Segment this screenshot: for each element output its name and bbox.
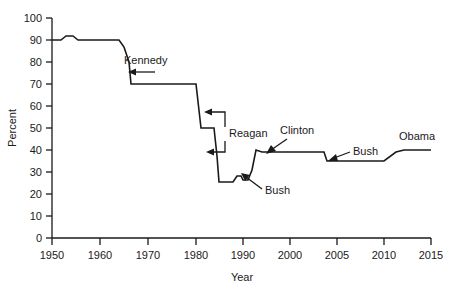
x-axis-tick-labels: 1950 1960 1970 1980 1990 2000 2005 2010 … (40, 249, 443, 261)
x-tick-label: 2005 (325, 249, 349, 261)
x-tick-label: 2000 (278, 249, 302, 261)
chart-background (0, 0, 456, 288)
y-tick-label: 10 (30, 210, 42, 222)
x-tick-label: 2010 (372, 249, 396, 261)
x-tick-label: 1970 (136, 249, 160, 261)
y-tick-label: 70 (30, 78, 42, 90)
annotation-obama: Obama (399, 130, 436, 142)
chart-container: 100 90 80 70 60 50 40 30 20 10 0 1950 (0, 0, 456, 288)
y-tick-label: 100 (24, 12, 42, 24)
y-tick-label: 60 (30, 100, 42, 112)
x-tick-label: 1960 (88, 249, 112, 261)
y-tick-label: 90 (30, 34, 42, 46)
y-axis-title: Percent (6, 109, 18, 147)
x-tick-label: 2015 (419, 249, 443, 261)
annotation-label-bush-1991: Bush (265, 184, 290, 196)
annotation-label-reagan: Reagan (229, 127, 268, 139)
y-tick-label: 80 (30, 56, 42, 68)
y-tick-label: 30 (30, 166, 42, 178)
y-tick-label: 40 (30, 144, 42, 156)
y-tick-label: 0 (36, 232, 42, 244)
tax-rate-line-chart: 100 90 80 70 60 50 40 30 20 10 0 1950 (0, 0, 456, 288)
annotation-label-bush-2003: Bush (353, 145, 378, 157)
x-tick-label: 1980 (184, 249, 208, 261)
annotation-label-kennedy: Kennedy (124, 54, 168, 66)
y-tick-label: 50 (30, 122, 42, 134)
annotation-label-obama: Obama (399, 130, 436, 142)
annotation-label-clinton: Clinton (280, 124, 314, 136)
x-tick-label: 1990 (231, 249, 255, 261)
x-axis-title: Year (231, 271, 254, 283)
y-tick-label: 20 (30, 188, 42, 200)
x-tick-label: 1950 (40, 249, 64, 261)
